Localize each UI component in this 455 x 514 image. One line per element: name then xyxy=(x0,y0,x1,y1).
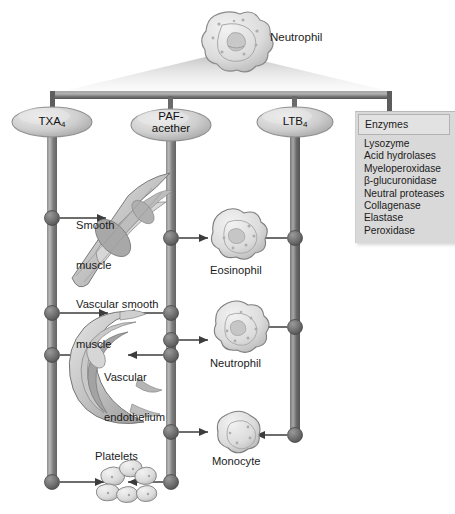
mediator-label-txa4-sub: 4 xyxy=(61,120,65,129)
mediator-label-ltb4: LTB4 xyxy=(255,115,335,127)
mediator-label-ltb4-text: LTB xyxy=(283,115,303,127)
enzymes-panel-header: Enzymes xyxy=(358,114,450,135)
platelets-illustration xyxy=(96,460,156,503)
enzyme-item: Peroxidase xyxy=(364,225,444,237)
target-label-platelets: Platelets xyxy=(95,450,138,463)
enzyme-item: Collagenase xyxy=(364,200,444,212)
enzyme-item: Neutral proteases xyxy=(364,188,444,200)
enzyme-item: Elastase xyxy=(364,212,444,224)
mediator-label-paf: PAF- acether xyxy=(131,110,211,134)
vascular-smooth-muscle-line1: Vascular smooth xyxy=(76,298,159,311)
target-label-eosinophil: Eosinophil xyxy=(210,264,262,277)
enzymes-panel-header-label: Enzymes xyxy=(365,118,408,130)
enzyme-item: Lysozyme xyxy=(364,138,444,150)
mediator-label-txa4: TXA4 xyxy=(12,115,92,127)
mediator-label-ltb4-sub: 4 xyxy=(303,120,307,129)
neutrophil-target-cell-icon xyxy=(214,301,269,352)
enzyme-item: Myeloperoxidase xyxy=(364,163,444,175)
eosinophil-cell-icon xyxy=(211,209,267,260)
mediator-label-paf-text: PAF- xyxy=(158,110,183,122)
vascular-endothelium-line1: Vascular xyxy=(104,371,165,384)
mediator-label-paf-text2: acether xyxy=(152,122,190,134)
target-label-monocyte: Monocyte xyxy=(212,455,261,468)
mediator-bus-bar xyxy=(50,91,392,113)
enzymes-list: Lysozyme Acid hydrolases Myeloperoxidase… xyxy=(364,138,444,237)
target-label-neutrophil: Neutrophil xyxy=(210,357,261,370)
target-label-vascular-endothelium: Vascular endothelium xyxy=(104,345,165,451)
mediator-label-txa4-text: TXA xyxy=(39,115,61,127)
smooth-muscle-line2: muscle xyxy=(76,259,115,272)
source-cell-label: Neutrophil xyxy=(270,31,322,45)
neutrophil-cell-icon xyxy=(202,12,273,72)
mediator-column-ltb4 xyxy=(290,128,300,436)
enzyme-item: Acid hydrolases xyxy=(364,150,444,162)
smooth-muscle-line1: Smooth xyxy=(76,219,115,232)
enzyme-item: β-glucuronidase xyxy=(364,175,444,187)
monocyte-cell-icon xyxy=(217,411,260,453)
vascular-endothelium-line2: endothelium xyxy=(104,411,165,424)
